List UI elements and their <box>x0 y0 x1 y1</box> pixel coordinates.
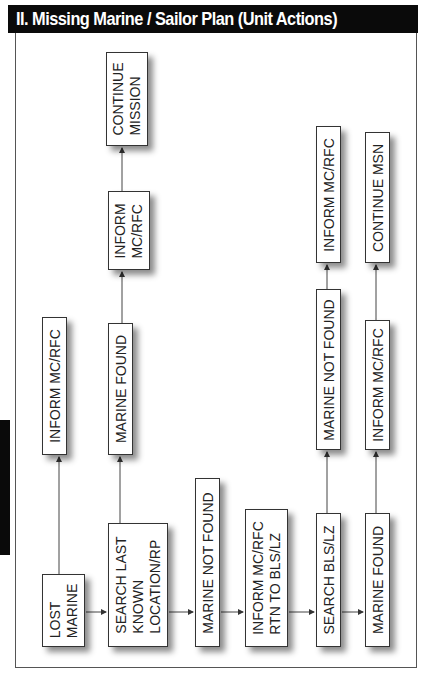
node-label: MARINE FOUND <box>112 335 129 443</box>
node-label: CONTINUE MISSION <box>110 62 144 135</box>
node-label: MARINE FOUND <box>369 526 386 634</box>
node-label: INFORM MC/RFC RTN TO BLS/LZ <box>250 521 284 635</box>
node-inform-mc-rfc-bls-found: INFORM MC/RFC <box>365 320 390 450</box>
node-label: MARINE NOT FOUND <box>199 492 216 633</box>
node-label: INFORM MC/RFC <box>369 328 386 442</box>
node-inform-rtn-bls-lz: INFORM MC/RFC RTN TO BLS/LZ <box>245 509 288 647</box>
node-inform-mc-rfc-not-found: INFORM MC/RFC <box>316 126 341 263</box>
node-label: INFORM MC/RFC <box>320 138 337 252</box>
node-label: LOST MARINE <box>47 583 81 637</box>
node-label: INFORM MC/RFC <box>112 203 146 258</box>
node-lost-marine: LOST MARINE <box>42 574 85 647</box>
node-continue-msn: CONTINUE MSN <box>365 132 390 263</box>
node-continue-mission: CONTINUE MISSION <box>106 52 148 146</box>
node-marine-found: MARINE FOUND <box>108 323 133 455</box>
node-inform-mc-rfc-initial: INFORM MC/RFC <box>42 317 67 455</box>
node-label: INFORM MC/RFC <box>46 329 63 443</box>
node-marine-not-found: MARINE NOT FOUND <box>195 478 220 647</box>
node-label: CONTINUE MSN <box>369 143 386 251</box>
node-search-last-known-location: SEARCH LAST KNOWN LOCATION/RP <box>108 523 168 647</box>
node-inform-mc-rfc-found: INFORM MC/RFC <box>108 191 150 270</box>
node-label: SEARCH LAST KNOWN LOCATION/RP <box>113 536 164 633</box>
node-marine-not-found-bls: MARINE NOT FOUND <box>316 289 341 450</box>
node-marine-found-bls: MARINE FOUND <box>365 513 390 647</box>
node-search-bls-lz: SEARCH BLS/LZ <box>316 513 341 647</box>
node-label: MARINE NOT FOUND <box>320 299 337 440</box>
node-label: SEARCH BLS/LZ <box>320 526 337 635</box>
